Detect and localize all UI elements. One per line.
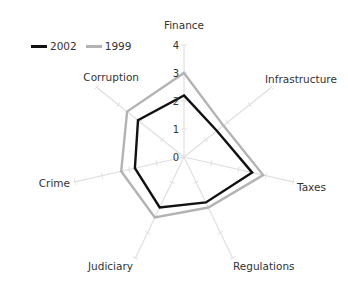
axis-category-labels: FinanceInfrastructureTaxesRegulationsJud… (39, 19, 337, 272)
radar-chart: 01234 FinanceInfrastructureTaxesRegulati… (0, 0, 348, 296)
axis-label-crime: Crime (39, 177, 70, 189)
axis-label-judiciary: Judiciary (87, 260, 133, 272)
axis-tick (101, 173, 102, 179)
series-1999 (121, 73, 263, 218)
radial-tick-4: 4 (173, 40, 179, 51)
axis-tick (265, 173, 266, 179)
axis-label-taxes: Taxes (296, 181, 326, 193)
axis-tick (211, 160, 212, 166)
radar-series (121, 73, 263, 218)
radial-tick-labels: 01234 (173, 40, 179, 163)
axis-tick (129, 167, 130, 173)
radial-tick-2: 2 (173, 96, 179, 107)
axis-tick (156, 160, 157, 166)
axis-tick (293, 179, 294, 185)
radial-tick-1: 1 (173, 124, 179, 135)
axis-label-finance: Finance (164, 19, 204, 31)
axis-label-corruption: Corruption (83, 71, 139, 83)
radial-tick-3: 3 (173, 68, 179, 79)
axis-tick (238, 167, 239, 173)
axis-label-infrastructure: Infrastructure (265, 73, 337, 85)
radial-tick-0: 0 (173, 152, 179, 163)
axis-tick (74, 179, 75, 185)
axis-label-regulations: Regulations (233, 260, 295, 272)
